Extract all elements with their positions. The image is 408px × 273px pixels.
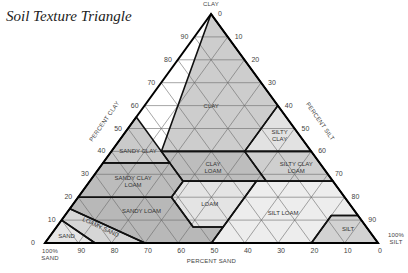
region-label-silty-clay-loam: SILTY CLAY [280, 161, 313, 167]
clay-tick: 30 [81, 170, 89, 177]
clay-tick: 90 [181, 33, 189, 40]
region-label-silty-clay-loam: LOAM [288, 168, 305, 174]
clay-tick: 10 [48, 216, 56, 223]
sand-tick: 90 [77, 247, 85, 254]
region-label-sandy-clay: SANDY CLAY [119, 148, 156, 154]
soil-texture-triangle: CLAYSANDY CLAYSILTYCLAYCLAYLOAMSILTY CLA… [0, 0, 408, 273]
clay-tick: 40 [98, 147, 106, 154]
sand-tick: 10 [344, 247, 352, 254]
region-label-clay: CLAY [204, 103, 219, 109]
region-label-sandy-clay-loam: SANDY CLAY [114, 175, 151, 181]
silt-tick: 50 [302, 125, 310, 132]
clay-tick: 50 [114, 125, 122, 132]
region-label-clay-loam: LOAM [204, 168, 221, 174]
region-label-silty-clay: CLAY [272, 136, 287, 142]
vertex-label-silt: 100% [388, 232, 405, 238]
sand-tick: 0 [378, 247, 382, 254]
silt-tick: 20 [251, 56, 259, 63]
region-label-silt-loam: SILT LOAM [268, 210, 299, 216]
vertex-label-clay: CLAY [203, 1, 219, 7]
sand-tick: 40 [244, 247, 252, 254]
sand-tick: 20 [311, 247, 319, 254]
sand-tick: 50 [211, 247, 219, 254]
axis-title-silt: PERCENT SILT [305, 101, 336, 141]
silt-tick: 0 [218, 10, 222, 17]
region-label-clay-loam: CLAY [205, 161, 220, 167]
clay-tick: 70 [147, 79, 155, 86]
region-label-silt: SILT [342, 226, 355, 232]
region-label-silty-clay: SILTY [271, 129, 287, 135]
axis-title-sand: PERCENT SAND [187, 258, 237, 264]
silt-tick: 10 [235, 33, 243, 40]
silt-tick: 30 [268, 79, 276, 86]
clay-tick: 60 [131, 102, 139, 109]
axis-title-clay: PERCENT CLAY [88, 100, 120, 143]
silt-tick: 90 [368, 216, 376, 223]
sand-tick: 70 [144, 247, 152, 254]
region-label-loam: LOAM [201, 201, 218, 207]
silt-tick: 70 [335, 170, 343, 177]
silt-tick: 60 [318, 147, 326, 154]
clay-tick: 20 [64, 193, 72, 200]
silt-tick: 40 [285, 102, 293, 109]
region-label-sand: SAND [58, 233, 75, 239]
silt-tick: 80 [352, 193, 360, 200]
vertex-label-sand: SAND [41, 255, 59, 261]
vertex-label-sand: 100% [42, 248, 59, 254]
sand-tick: 30 [277, 247, 285, 254]
vertex-label-silt: SILT [389, 239, 402, 245]
clay-tick: 80 [164, 56, 172, 63]
clay-tick: 0 [31, 239, 35, 246]
sand-tick: 80 [111, 247, 119, 254]
region-label-sandy-loam: SANDY LOAM [122, 208, 161, 214]
sand-tick: 60 [177, 247, 185, 254]
region-label-sandy-clay-loam: LOAM [125, 182, 142, 188]
